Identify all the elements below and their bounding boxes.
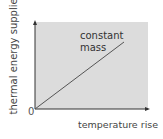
origin-label: 0 (28, 106, 34, 117)
annotation-line-1: constant (80, 30, 123, 42)
x-axis-label: temperature rise (78, 119, 158, 130)
line-annotation: constant mass (80, 30, 123, 54)
annotation-line-2: mass (80, 42, 123, 54)
y-axis-label: thermal energy supplied (8, 5, 19, 115)
